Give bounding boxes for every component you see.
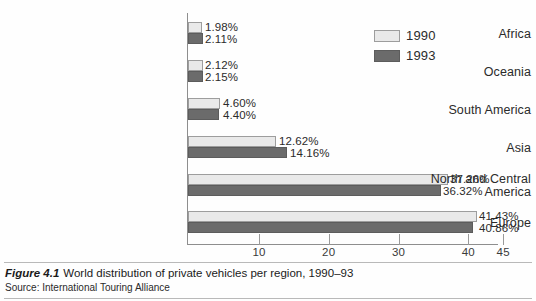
value-label-africa-1993: 2.11% — [205, 33, 237, 45]
value-label-oceania-1993: 2.15% — [205, 71, 238, 83]
figure-caption-text: World distribution of private vehicles p… — [63, 267, 353, 279]
chart-legend: 1990 1993 — [374, 29, 494, 69]
value-label-europe-1993: 40.86% — [479, 222, 519, 234]
bar-asia-1990 — [188, 136, 276, 147]
x-tick-mark-20 — [329, 234, 330, 245]
legend-entry-1990: 1990 — [374, 29, 494, 46]
x-tick-label-20: 20 — [314, 246, 344, 258]
value-label-asia-1993: 14.16% — [290, 147, 330, 159]
bar-oceania-1993 — [188, 71, 203, 82]
bar-africa-1990 — [188, 22, 202, 33]
x-tick-label-45: 45 — [488, 246, 518, 258]
bar-africa-1993 — [188, 33, 203, 44]
figure-caption: Figure 4.1World distribution of private … — [5, 267, 353, 279]
bar-oceania-1990 — [188, 60, 203, 71]
caption-rule-bottom — [4, 298, 532, 299]
bar-south-america-1990 — [188, 98, 220, 109]
value-label-europe-1990: 41.43% — [479, 210, 519, 222]
legend-label-1990: 1990 — [406, 28, 436, 43]
figure-source: Source: International Touring Alliance — [5, 282, 170, 293]
caption-rule-top — [4, 262, 532, 263]
figure-container: 10 20 30 40 45 Africa 1.98% 2.11% Oceani… — [0, 0, 536, 301]
value-label-africa-1990: 1.98% — [205, 21, 238, 33]
value-label-north-central-america-1993: 36.32% — [443, 185, 483, 197]
value-label-south-america-1993: 4.40% — [223, 109, 256, 121]
bar-asia-1993 — [188, 147, 287, 158]
figure-number: Figure 4.1 — [5, 267, 59, 279]
x-tick-mark-45 — [503, 234, 504, 245]
legend-entry-1993: 1993 — [374, 49, 494, 66]
category-label-asia: Asia — [358, 142, 536, 155]
bar-south-america-1993 — [188, 109, 219, 120]
value-label-oceania-1990: 2.12% — [205, 59, 238, 71]
value-label-south-america-1990: 4.60% — [223, 97, 256, 109]
category-label-south-america: South America — [358, 104, 536, 117]
legend-swatch-1990 — [374, 30, 400, 42]
x-tick-mark-30 — [399, 234, 400, 245]
x-tick-label-40: 40 — [453, 246, 483, 258]
chart-plot-area: 10 20 30 40 45 Africa 1.98% 2.11% Oceani… — [0, 0, 536, 258]
x-tick-label-10: 10 — [244, 246, 274, 258]
x-tick-mark-10 — [259, 234, 260, 245]
legend-label-1993: 1993 — [406, 48, 436, 63]
x-tick-mark-40 — [468, 234, 469, 245]
legend-swatch-1993 — [374, 50, 400, 62]
value-label-north-central-america-1990: 37.26% — [450, 173, 490, 185]
value-label-asia-1990: 12.62% — [279, 135, 319, 147]
x-tick-label-30: 30 — [384, 246, 414, 258]
